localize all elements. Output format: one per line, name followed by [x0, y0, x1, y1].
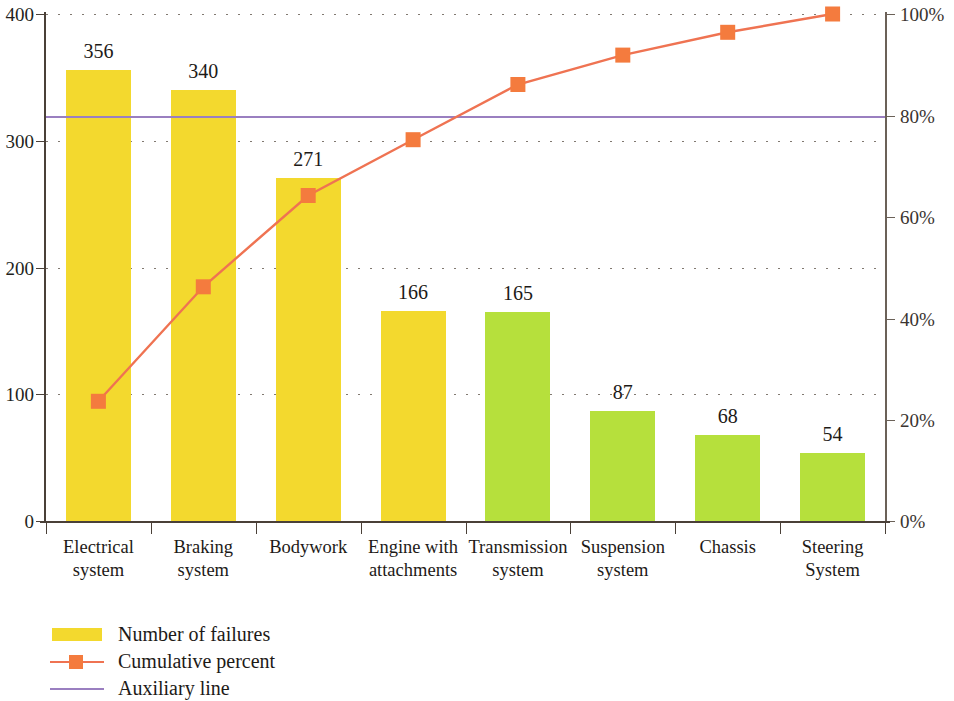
- y2-axis-label-40: 40%: [900, 310, 954, 329]
- y2-axis-label-80: 80%: [900, 107, 954, 126]
- cumulative-marker[interactable]: [720, 25, 735, 40]
- y-axis-label-300: 300: [0, 132, 34, 151]
- cumulative-marker[interactable]: [406, 132, 421, 147]
- y2-axis-label-60: 60%: [900, 208, 954, 227]
- y-axis-right: [885, 12, 887, 523]
- y-tick-right-40: [886, 319, 895, 320]
- y-tick-left-200: [36, 268, 45, 269]
- x-axis-label-steering-system: SteeringSystem: [768, 536, 898, 582]
- bar-swatch-icon: [52, 628, 102, 641]
- x-tick: [46, 523, 47, 534]
- x-tick: [466, 523, 467, 534]
- y-tick-right-60: [886, 217, 895, 218]
- pareto-chart: 400 300 200 100 0 100% 80% 60% 40% 20% 0…: [0, 0, 954, 701]
- x-tick: [151, 523, 152, 534]
- y-axis-label-0: 0: [0, 512, 34, 531]
- bar-engine-with-attachments[interactable]: [381, 311, 446, 521]
- bar-bodywork[interactable]: [276, 178, 341, 521]
- y-tick-right-20: [886, 420, 895, 421]
- bar-steering-system[interactable]: [800, 453, 865, 521]
- legend: Number of failures Cumulative percent Au…: [48, 622, 468, 701]
- y2-axis-label-0: 0%: [900, 512, 954, 531]
- legend-label-auxiliary-line: Auxiliary line: [118, 676, 230, 701]
- legend-label-cumulative-percent: Cumulative percent: [118, 649, 275, 674]
- bar-value-label: 166: [368, 282, 458, 302]
- bar-value-label: 54: [788, 424, 878, 444]
- y-axis-label-200: 200: [0, 259, 34, 278]
- bar-value-label: 165: [473, 283, 563, 303]
- purple-line-swatch-icon: [50, 688, 104, 690]
- y-tick-left-400: [36, 14, 45, 15]
- y-tick-right-80: [886, 116, 895, 117]
- x-tick: [361, 523, 362, 534]
- bar-braking-system[interactable]: [171, 90, 236, 521]
- legend-item-cumulative-percent[interactable]: Cumulative percent: [48, 649, 468, 676]
- y-axis-label-400: 400: [0, 5, 34, 24]
- cumulative-marker[interactable]: [510, 77, 525, 92]
- bar-value-label: 271: [263, 149, 353, 169]
- cumulative-line-layer: [0, 0, 954, 701]
- y-axis-label-100: 100: [0, 385, 34, 404]
- bar-transmission-system[interactable]: [485, 312, 550, 521]
- bar-value-label: 356: [53, 41, 143, 61]
- bar-value-label: 340: [158, 61, 248, 81]
- x-tick: [885, 523, 886, 534]
- x-tick: [675, 523, 676, 534]
- y2-axis-label-20: 20%: [900, 411, 954, 430]
- y2-axis-label-100: 100%: [900, 5, 954, 24]
- x-tick: [780, 523, 781, 534]
- legend-label-number-of-failures: Number of failures: [118, 622, 270, 647]
- cumulative-marker[interactable]: [615, 48, 630, 63]
- x-tick: [570, 523, 571, 534]
- x-tick: [256, 523, 257, 534]
- auxiliary-line: [46, 116, 885, 118]
- legend-item-number-of-failures[interactable]: Number of failures: [48, 622, 468, 649]
- y-tick-right-100: [886, 14, 895, 15]
- bar-chassis[interactable]: [695, 435, 760, 521]
- gridline-400: [46, 14, 885, 15]
- bar-value-label: 87: [578, 382, 668, 402]
- bar-suspension-system[interactable]: [590, 411, 655, 521]
- bar-electrical-system[interactable]: [66, 70, 131, 521]
- y-tick-left-300: [36, 141, 45, 142]
- bar-value-label: 68: [683, 406, 773, 426]
- legend-item-auxiliary-line[interactable]: Auxiliary line: [48, 676, 468, 701]
- square-marker-icon: [69, 655, 83, 669]
- y-tick-left-100: [36, 394, 45, 395]
